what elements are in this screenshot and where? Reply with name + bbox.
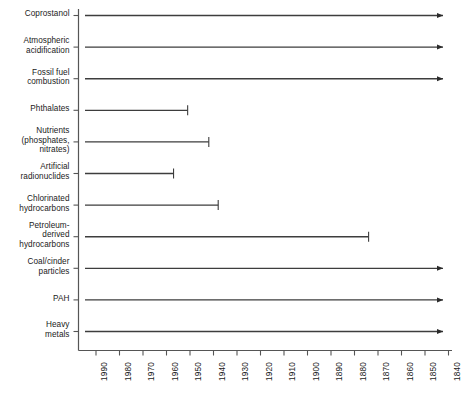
category-label: Petroleum- derived hydrocarbons <box>0 221 70 250</box>
x-tick-label: 1970 <box>147 361 156 380</box>
x-tick-label: 1880 <box>359 361 368 380</box>
x-tick-label: 1930 <box>241 361 250 380</box>
category-label: Fossil fuel combustion <box>0 68 70 87</box>
category-label: Coprostanol <box>0 9 70 19</box>
x-tick-label: 1950 <box>194 361 203 380</box>
x-tick-label: 1850 <box>429 361 438 380</box>
timeline-bar <box>85 137 209 147</box>
category-label: Atmospheric acidification <box>0 36 70 55</box>
x-tick-label: 1840 <box>453 361 462 380</box>
timeline-bar <box>85 169 174 179</box>
axes-group <box>74 9 453 356</box>
timeline-bar <box>85 200 218 210</box>
category-label: Phthalates <box>0 104 70 114</box>
x-tick-label: 1890 <box>335 361 344 380</box>
x-tick-label: 1910 <box>288 361 297 380</box>
category-label: PAH <box>0 294 70 304</box>
category-label: Heavy metals <box>0 320 70 339</box>
x-tick-label: 1940 <box>218 361 227 380</box>
category-label: Nutrients (phosphates, nitrates) <box>0 126 70 155</box>
category-label: Artificial radionuclides <box>0 162 70 181</box>
x-tick-label: 1990 <box>100 361 109 380</box>
x-tick-label: 1960 <box>171 361 180 380</box>
x-tick-label: 1980 <box>124 361 133 380</box>
timeline-bar <box>85 232 369 242</box>
category-label: Chlorinated hydrocarbons <box>0 194 70 213</box>
timeline-bar <box>85 105 188 115</box>
x-tick-label: 1920 <box>265 361 274 380</box>
x-tick-label: 1860 <box>406 361 415 380</box>
x-tick-label: 1900 <box>312 361 321 380</box>
x-tick-label: 1870 <box>382 361 391 380</box>
category-label: Coal/cinder particles <box>0 257 70 276</box>
bars-group <box>85 16 443 332</box>
